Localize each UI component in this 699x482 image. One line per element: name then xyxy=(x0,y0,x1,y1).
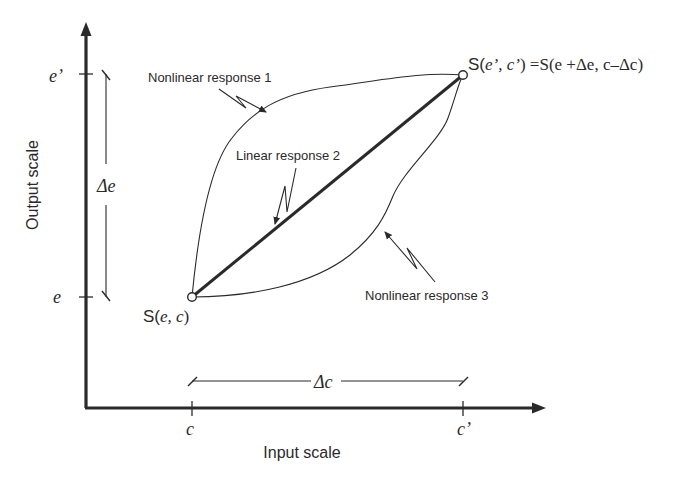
end-point-marker xyxy=(459,71,468,80)
nonlinear-response-3-label: Nonlinear response 3 xyxy=(365,288,489,303)
linear-response-2-label: Linear response 2 xyxy=(236,148,340,163)
x-axis-title: Input scale xyxy=(263,444,340,461)
y-axis-arrow-icon xyxy=(81,22,92,36)
response-scale-diagram: e’ e c c’ Input scale Output scale Δe Δc… xyxy=(0,0,699,482)
delta-e-label: Δe xyxy=(96,176,116,196)
leader-arrow-3-icon xyxy=(385,232,435,282)
nonlinear-response-1-label: Nonlinear response 1 xyxy=(148,70,272,85)
x-axis-arrow-icon xyxy=(532,403,546,414)
y-tick-label-e: e xyxy=(53,287,61,307)
y-axis-title: Output scale xyxy=(24,140,41,230)
x-tick-label-c-prime: c’ xyxy=(457,419,471,439)
start-point-label: S(e, c) xyxy=(143,307,189,326)
end-point-label: S(e’, c’) =S(e +Δe, c–Δc) xyxy=(468,55,643,74)
delta-c-label: Δc xyxy=(313,372,333,392)
start-point-marker xyxy=(188,293,197,302)
y-tick-label-e-prime: e’ xyxy=(49,66,63,86)
x-tick-label-c: c xyxy=(186,419,194,439)
leader-arrow-1-icon xyxy=(219,89,266,112)
linear-response-2-line xyxy=(192,75,463,297)
